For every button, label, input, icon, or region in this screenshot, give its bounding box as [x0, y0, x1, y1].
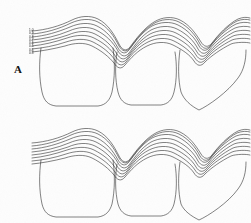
tooth-outline-1 — [40, 48, 115, 106]
arch-contours-a — [32, 16, 250, 67]
panel-a-drawing — [0, 0, 251, 112]
panel-b-drawing — [0, 112, 251, 223]
panel-letter-a: A — [14, 63, 22, 75]
tooth-outline-2 — [116, 52, 177, 105]
arch-contour-1 — [32, 16, 250, 49]
tick-label: 0.3 — [29, 52, 33, 56]
arch-contour-7 — [32, 150, 250, 177]
panel-a: A 1.0 0.9 0.8 0.7 0.6 0.5 0.4 0.3 — [0, 0, 251, 112]
tooth-outline-1 — [40, 160, 115, 217]
tooth-outline-2 — [116, 164, 177, 216]
arch-contour-1 — [32, 128, 250, 161]
panel-b: B 1.0 0.9 0.8 0.7 0.6 0.5 0.4 0.3 — [0, 112, 251, 223]
figure-canvas: A 1.0 0.9 0.8 0.7 0.6 0.5 0.4 0.3 — [0, 0, 251, 223]
tooth-outline-3 — [179, 162, 246, 220]
arch-contour-7 — [32, 38, 250, 65]
arch-contours-b — [32, 128, 250, 179]
tick-label-group-a: 1.0 0.9 0.8 0.7 0.6 0.5 0.4 0.3 — [29, 29, 42, 55]
tooth-outline-3 — [179, 50, 246, 110]
